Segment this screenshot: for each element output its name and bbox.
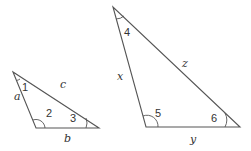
angle-label-6: 6	[211, 112, 217, 124]
angle-arc-6	[225, 113, 227, 127]
angle-arc-4	[116, 16, 124, 19]
small-triangle: 1 2 3 a c b	[13, 72, 99, 145]
angle-label-5: 5	[155, 107, 161, 119]
side-label-b: b	[64, 132, 71, 145]
triangles-diagram: 1 2 3 a c b 4 5 6 x z y	[0, 0, 251, 151]
angle-arc-1	[17, 79, 21, 81]
large-triangle: 4 5 6 x z y	[113, 7, 240, 146]
side-label-x: x	[117, 70, 124, 83]
angle-label-3: 3	[70, 112, 76, 124]
side-label-c: c	[60, 78, 66, 91]
angle-label-1: 1	[22, 81, 28, 93]
angle-label-2: 2	[46, 107, 52, 119]
side-label-y: y	[189, 133, 197, 146]
angle-label-4: 4	[124, 26, 130, 38]
side-label-a: a	[14, 90, 21, 103]
angle-arc-3	[86, 118, 87, 128]
side-label-z: z	[181, 57, 188, 70]
